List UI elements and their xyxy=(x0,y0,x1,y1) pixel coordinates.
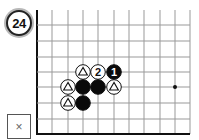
star-points xyxy=(173,85,177,89)
black-stone: 1 xyxy=(107,65,122,80)
move-number: 2 xyxy=(95,66,101,78)
star-point-icon xyxy=(173,85,177,89)
white-stone: 2 xyxy=(91,65,106,80)
white-stone xyxy=(76,65,91,80)
move-number: 1 xyxy=(111,66,117,78)
white-stone xyxy=(107,80,122,95)
white-stone xyxy=(61,96,76,111)
cross-icon: × xyxy=(15,121,22,133)
black-stone xyxy=(91,80,106,95)
black-stone xyxy=(76,96,91,111)
problem-number-badge: 24 xyxy=(6,10,32,36)
problem-number: 24 xyxy=(12,16,25,31)
white-stone xyxy=(61,80,76,95)
black-stone xyxy=(76,80,91,95)
answer-checkbox[interactable]: × xyxy=(7,114,31,139)
